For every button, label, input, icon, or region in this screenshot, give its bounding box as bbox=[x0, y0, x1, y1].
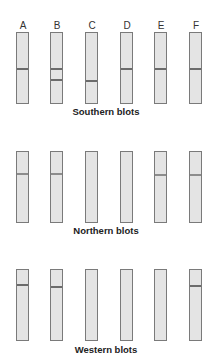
southern-lane-b bbox=[50, 32, 63, 104]
western-lane-c bbox=[85, 269, 98, 341]
southern-lane-f bbox=[189, 32, 202, 104]
western-lane-a bbox=[16, 269, 29, 341]
southern-lane-e bbox=[154, 32, 167, 104]
northern-lane-d bbox=[120, 151, 133, 223]
southern-lane-a bbox=[16, 32, 29, 104]
southern-blots-title: Southern blots bbox=[0, 107, 212, 117]
western-blots-title: Western blots bbox=[0, 345, 212, 355]
lane-label-a: A bbox=[16, 21, 30, 31]
western-lane-f bbox=[189, 269, 202, 341]
lane-label-b: B bbox=[50, 21, 64, 31]
northern-lane-b bbox=[50, 151, 63, 223]
western-lane-b bbox=[50, 269, 63, 341]
band bbox=[51, 286, 62, 288]
band bbox=[17, 284, 28, 286]
southern-lane-d bbox=[120, 32, 133, 104]
western-lane-d bbox=[120, 269, 133, 341]
band bbox=[155, 174, 166, 176]
band bbox=[51, 173, 62, 175]
lane-label-d: D bbox=[120, 21, 134, 31]
band bbox=[121, 68, 132, 70]
band bbox=[51, 68, 62, 70]
northern-lane-e bbox=[154, 151, 167, 223]
northern-lane-f bbox=[189, 151, 202, 223]
band bbox=[190, 68, 201, 70]
southern-lane-c bbox=[85, 32, 98, 104]
band bbox=[155, 68, 166, 70]
band bbox=[17, 173, 28, 175]
band bbox=[190, 285, 201, 287]
band bbox=[17, 68, 28, 70]
northern-lane-c bbox=[85, 151, 98, 223]
northern-lane-a bbox=[16, 151, 29, 223]
band bbox=[86, 80, 97, 82]
northern-blots-title: Northern blots bbox=[0, 226, 212, 236]
western-lane-e bbox=[154, 269, 167, 341]
lane-label-f: F bbox=[189, 21, 203, 31]
band bbox=[51, 79, 62, 81]
lane-label-e: E bbox=[154, 21, 168, 31]
band bbox=[190, 174, 201, 176]
lane-label-c: C bbox=[85, 21, 99, 31]
